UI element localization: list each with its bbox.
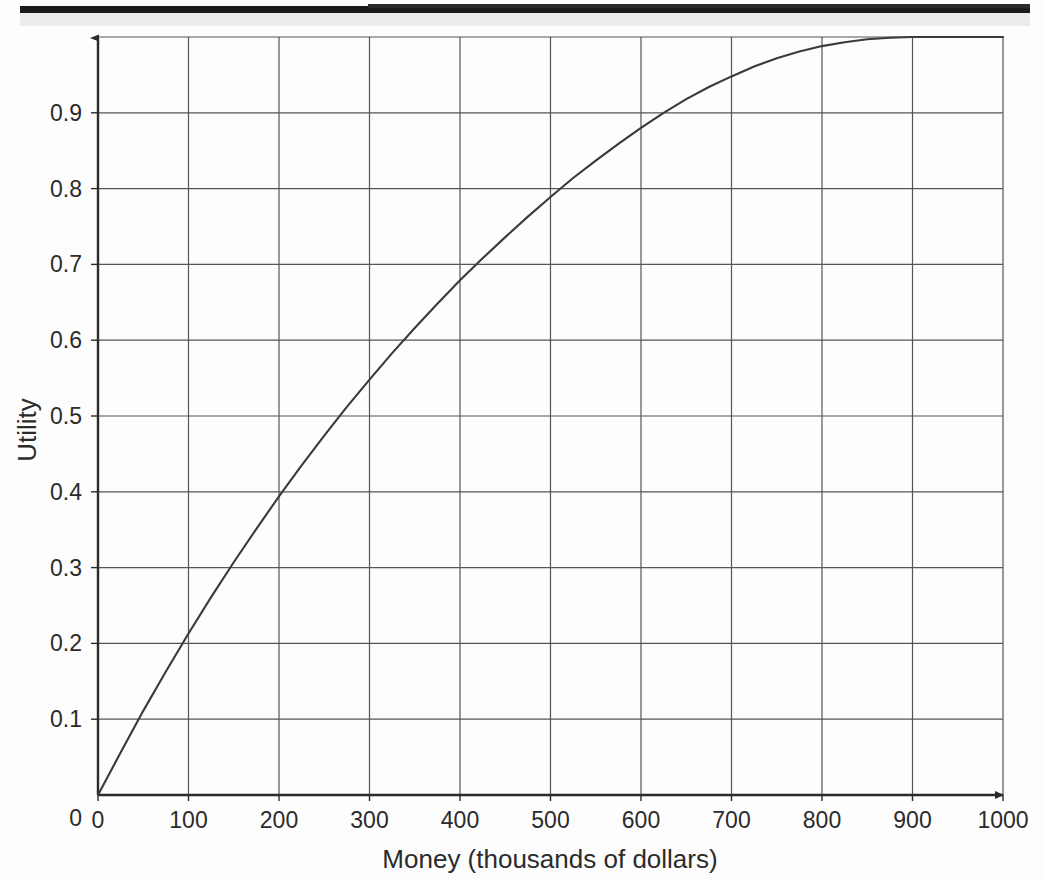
y-tick-label: 0.2 bbox=[50, 630, 82, 656]
y-tick-label: 0 bbox=[69, 805, 82, 831]
x-tick-label: 300 bbox=[350, 807, 388, 833]
utility-of-money-chart: 01002003004005006007008009001000 00.10.2… bbox=[0, 0, 1045, 880]
page-root: 01002003004005006007008009001000 00.10.2… bbox=[0, 0, 1045, 880]
y-tick-label: 0.9 bbox=[50, 100, 82, 126]
y-tick-label: 0.1 bbox=[50, 706, 82, 732]
y-tick-label: 0.8 bbox=[50, 176, 82, 202]
y-tick-labels: 00.10.20.30.40.50.60.70.80.9 bbox=[50, 100, 98, 831]
x-tick-label: 700 bbox=[712, 807, 750, 833]
x-tick-label: 900 bbox=[893, 807, 931, 833]
y-tick-label: 0.4 bbox=[50, 479, 82, 505]
x-tick-labels: 01002003004005006007008009001000 bbox=[92, 807, 1029, 833]
x-tick-label: 1000 bbox=[977, 807, 1028, 833]
y-tick-label: 0.7 bbox=[50, 251, 82, 277]
x-tick-label: 100 bbox=[169, 807, 207, 833]
y-tick-label: 0.3 bbox=[50, 555, 82, 581]
x-tick-label: 600 bbox=[622, 807, 660, 833]
y-tick-label: 0.5 bbox=[50, 403, 82, 429]
x-tick-label: 400 bbox=[441, 807, 479, 833]
x-tick-label: 500 bbox=[531, 807, 569, 833]
x-tick-label: 0 bbox=[92, 807, 105, 833]
x-tick-label: 800 bbox=[803, 807, 841, 833]
y-axis-title: Utility bbox=[12, 398, 42, 462]
grid-lines bbox=[98, 37, 1003, 795]
x-axis-title: Money (thousands of dollars) bbox=[382, 844, 717, 874]
x-tick-label: 200 bbox=[260, 807, 298, 833]
chart-container: 01002003004005006007008009001000 00.10.2… bbox=[0, 0, 1045, 880]
y-tick-label: 0.6 bbox=[50, 327, 82, 353]
